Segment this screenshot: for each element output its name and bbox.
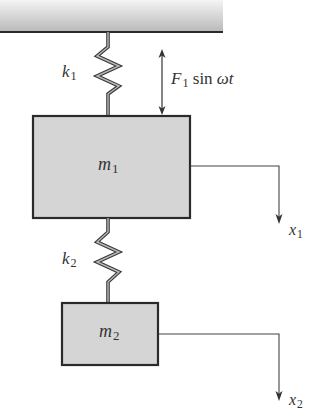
force-label: F1 sin ωt [171, 70, 234, 89]
spring-k1-label: k1 [62, 63, 77, 82]
displacement-x1-symbol: x [289, 221, 296, 238]
spring-k2-icon [97, 218, 119, 303]
force-argument: ωt [217, 69, 234, 88]
spring-mass-diagram [0, 0, 315, 420]
mass-m2-symbol: m [99, 321, 112, 341]
mass-m1-subscript: 1 [112, 161, 118, 176]
force-function: sin [193, 69, 213, 88]
displacement-x2-subscript: 2 [297, 398, 303, 410]
mass-m2-subscript: 2 [113, 328, 119, 343]
force-symbol: F [171, 69, 181, 88]
spring-k2-label: k2 [62, 250, 77, 269]
displacement-x2-symbol: x [289, 391, 296, 408]
spring-k1-symbol: k [62, 62, 70, 81]
force-arrow-icon [159, 49, 166, 115]
spring-k2-subscript: 2 [71, 256, 77, 270]
spring-k2-symbol: k [62, 249, 70, 268]
displacement-x1-arrow-icon [191, 166, 283, 224]
ceiling-support [0, 0, 223, 32]
mass-m1-label: m1 [98, 155, 118, 176]
displacement-x1-label: x1 [289, 222, 303, 240]
spring-k1-subscript: 1 [71, 69, 77, 83]
displacement-x2-arrow-icon [159, 334, 283, 401]
mass-m2-label: m2 [99, 322, 119, 343]
displacement-x1-subscript: 1 [297, 228, 303, 240]
spring-k1-icon [97, 32, 119, 115]
force-subscript: 1 [182, 76, 188, 90]
mass-m1-symbol: m [98, 154, 111, 174]
displacement-x2-label: x2 [289, 392, 303, 410]
